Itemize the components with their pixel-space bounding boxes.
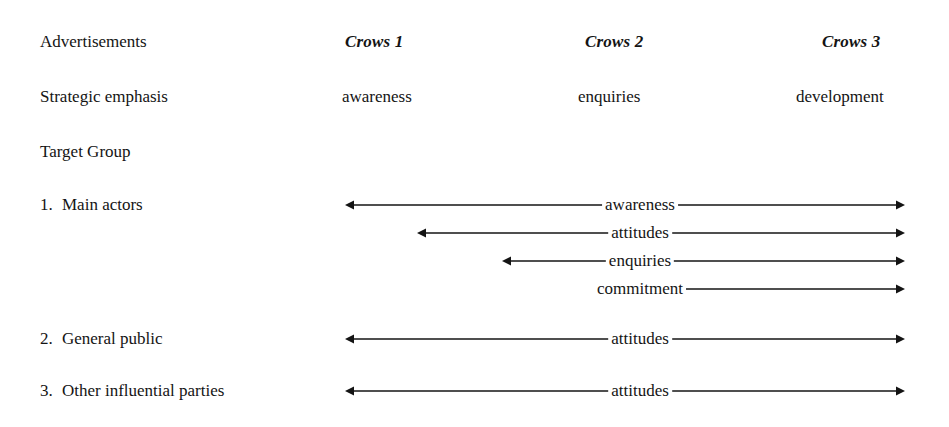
row-label-advertisements: Advertisements <box>40 32 147 52</box>
arrow-label-attitudes: attitudes <box>608 224 672 242</box>
strategic-emphasis-crows-2: enquiries <box>578 87 640 107</box>
arrowhead-right-icon <box>896 386 905 395</box>
figure-canvas: Advertisements Strategic emphasis Target… <box>0 0 949 427</box>
arrow-label-attitudes: attitudes <box>608 382 672 400</box>
arrow-attitudes-5: attitudes <box>345 329 905 349</box>
arrowhead-right-icon <box>896 228 905 237</box>
strategic-emphasis-crows-1: awareness <box>342 87 412 107</box>
target-group-label-2: General public <box>62 329 163 348</box>
arrowhead-left-icon <box>345 200 354 209</box>
target-group-row-3: 3.Other influential parties <box>40 381 224 401</box>
arrowhead-left-icon <box>345 386 354 395</box>
target-group-number-2: 2. <box>40 329 62 349</box>
arrowhead-left-icon <box>417 228 426 237</box>
arrowhead-right-icon <box>896 334 905 343</box>
arrowhead-right-icon <box>896 256 905 265</box>
row-label-target-group: Target Group <box>40 142 131 162</box>
column-header-crows-2: Crows 2 <box>585 32 644 52</box>
row-label-strategic-emphasis: Strategic emphasis <box>40 87 168 107</box>
target-group-row-1: 1.Main actors <box>40 195 143 215</box>
target-group-row-2: 2.General public <box>40 329 163 349</box>
arrow-label-commitment: commitment <box>594 280 686 298</box>
arrowhead-right-icon <box>896 284 905 293</box>
target-group-label-3: Other influential parties <box>62 381 224 400</box>
arrow-label-attitudes: attitudes <box>608 330 672 348</box>
arrow-commitment-4: commitment <box>607 279 905 299</box>
target-group-number-1: 1. <box>40 195 62 215</box>
arrowhead-right-icon <box>896 200 905 209</box>
column-header-crows-3: Crows 3 <box>822 32 881 52</box>
arrow-label-enquiries: enquiries <box>606 252 674 270</box>
arrowhead-left-icon <box>502 256 511 265</box>
strategic-emphasis-crows-3: development <box>796 87 884 107</box>
arrowhead-left-icon <box>345 334 354 343</box>
arrow-enquiries-3: enquiries <box>502 251 905 271</box>
target-group-number-3: 3. <box>40 381 62 401</box>
arrow-attitudes-2: attitudes <box>417 223 905 243</box>
arrow-attitudes-6: attitudes <box>345 381 905 401</box>
arrow-awareness-1: awareness <box>345 195 905 215</box>
arrow-label-awareness: awareness <box>602 196 678 214</box>
target-group-label-1: Main actors <box>62 195 143 214</box>
column-header-crows-1: Crows 1 <box>345 32 404 52</box>
